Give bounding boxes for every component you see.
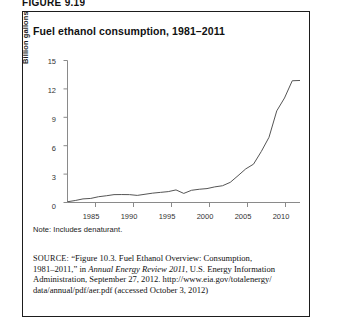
x-tick-label-2010: 2010 [266, 212, 296, 221]
source-label: SOURCE: [33, 254, 69, 263]
figure-box: Fuel ethanol consumption, 1981–2011 Bill… [22, 11, 310, 317]
source-publication-title: Annual Energy Review 2011 [88, 264, 185, 274]
source-line-1: SOURCE: “Figure 10.3. Fuel Ethanol Overv… [33, 253, 301, 264]
source-line-2-a: 1981–2011,” in [33, 264, 88, 274]
y-tick-label-0: 0 [40, 202, 56, 211]
x-tick-label-1985: 1985 [76, 212, 106, 221]
x-tick-label-2005: 2005 [228, 212, 258, 221]
x-tick-label-2000: 2000 [190, 212, 220, 221]
y-axis-label: Billion gallons [21, 11, 30, 64]
source-line-2: 1981–2011,” in Annual Energy Review 2011… [33, 264, 301, 274]
y-axis-ticks [64, 61, 68, 203]
source-citation: SOURCE: “Figure 10.3. Fuel Ethanol Overv… [33, 253, 301, 295]
line-chart-plot [63, 60, 301, 208]
y-tick-label-6: 6 [40, 144, 56, 153]
x-tick-label-1990: 1990 [114, 212, 144, 221]
source-line-3: Administration, September 27, 2012. http… [33, 274, 301, 284]
source-line-2-b: , U.S. Energy Information [185, 264, 275, 274]
chart-svg [63, 60, 301, 208]
y-tick-label-12: 12 [40, 86, 56, 95]
x-tick-label-1995: 1995 [152, 212, 182, 221]
y-tick-label-9: 9 [40, 115, 56, 124]
figure-number-header: FIGURE 9.19 [22, 0, 85, 8]
data-series-fuel-ethanol [68, 80, 301, 201]
chart-note: Note: Includes denaturant. [33, 225, 122, 234]
chart-title: Fuel ethanol consumption, 1981–2011 [33, 25, 225, 37]
source-line-4: data/annual/pdf/aer.pdf (accessed Octobe… [33, 285, 301, 295]
x-axis-ticks [96, 203, 286, 208]
y-tick-label-3: 3 [40, 173, 56, 182]
source-line-1-text: “Figure 10.3. Fuel Ethanol Overview: Con… [69, 253, 252, 263]
y-tick-label-15: 15 [40, 57, 56, 66]
